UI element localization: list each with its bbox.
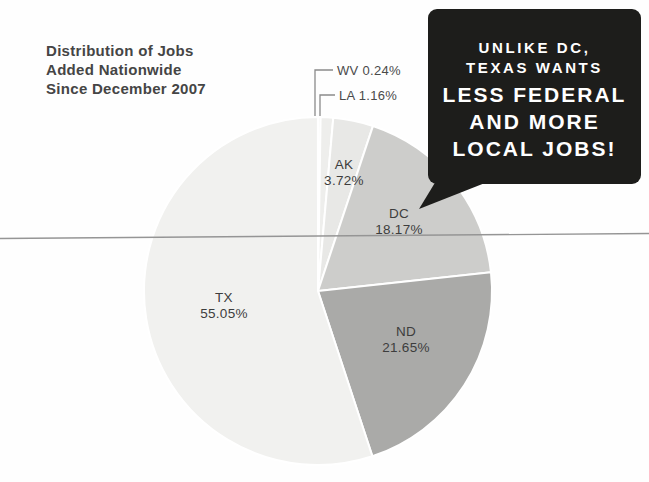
title-line-3: Since December 2007 [46,79,206,98]
leader-line-wv [315,70,333,116]
bubble-line-3: LESS FEDERAL [428,81,641,108]
title-line-1: Distribution of Jobs [46,41,206,60]
bubble-line-4: AND MORE [428,108,641,135]
title-line-2: Added Nationwide [46,60,206,79]
bubble-line-1: UNLIKE DC, [428,38,641,58]
infographic-canvas: Distribution of Jobs Added Nationwide Si… [0,0,649,482]
speech-bubble: UNLIKE DC, TEXAS WANTS LESS FEDERAL AND … [428,9,641,184]
page-title: Distribution of Jobs Added Nationwide Si… [46,41,206,98]
leader-line-la [320,95,335,116]
bubble-line-5: LOCAL JOBS! [428,135,641,162]
bubble-line-2: TEXAS WANTS [428,58,641,78]
